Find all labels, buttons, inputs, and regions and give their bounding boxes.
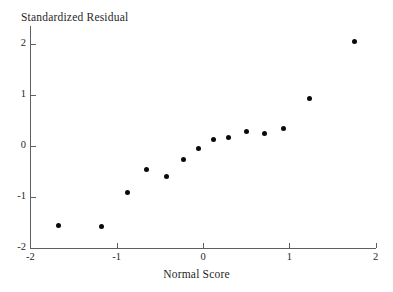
scatter-points-layer	[0, 0, 393, 292]
scatter-point	[181, 157, 186, 162]
scatter-point	[196, 146, 201, 151]
scatter-point	[244, 129, 249, 134]
scatter-point	[144, 167, 149, 172]
scatter-point	[262, 131, 267, 136]
scatter-point	[226, 135, 231, 140]
scatter-point	[352, 39, 357, 44]
scatter-point	[99, 224, 104, 229]
x-axis-title: Normal Score	[0, 268, 393, 280]
scatter-point	[125, 190, 130, 195]
scatter-point	[307, 96, 312, 101]
scatter-point	[56, 223, 61, 228]
normal-probability-plot: Standardized Residual -2-1012 -2-1012 No…	[0, 0, 393, 292]
scatter-point	[211, 137, 216, 142]
scatter-point	[164, 174, 169, 179]
scatter-point	[281, 126, 286, 131]
